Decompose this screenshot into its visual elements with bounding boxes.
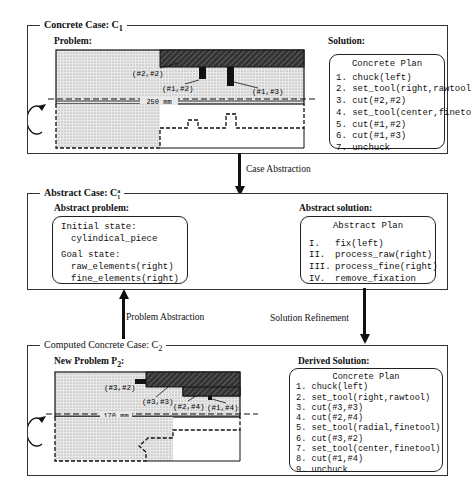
- computed-case-title-text: Computed Concrete Case: C: [44, 339, 158, 350]
- plan-step: 3. cut(#2,#2): [336, 96, 438, 108]
- plan-step: 9. unchuck: [296, 465, 436, 475]
- callout-2-4: (#2,#4): [173, 403, 205, 411]
- concrete-case-title-sub: 1: [119, 24, 123, 33]
- plan-step: 5. set_tool(radial,finetool): [296, 423, 436, 433]
- workpiece-diagram-c1: 250 mm (#2,#2) (#1,#2) (#1,#3): [28, 46, 318, 156]
- solution-refinement-arrow: [363, 288, 366, 335]
- callout-3-3: (#3,#3): [142, 398, 174, 406]
- plan-step: 3. cut(#3,#3): [296, 403, 436, 413]
- concrete-plan-c2: Concrete Plan 1. chuck(left) 2. set_tool…: [289, 368, 443, 472]
- abstract-case-title-text: Abstract Case: C: [44, 187, 117, 198]
- plan-step: 1. chuck(left): [296, 382, 436, 392]
- plan-step: 8. cut(#1,#4): [296, 454, 436, 464]
- goal-state-value: fine_elements(right): [61, 274, 179, 286]
- concrete-case-title: Concrete Case: C1: [40, 19, 127, 35]
- callout-2-2: (#2,#2): [132, 70, 164, 78]
- plan-title: Abstract Plan: [309, 221, 427, 233]
- plan-step: 6. cut(#1,#3): [336, 131, 438, 143]
- plan-step: 7. set_tool(center,finetool): [296, 444, 436, 454]
- plan-step: 5. cut(#1,#2): [336, 120, 438, 132]
- rotation-icon: [28, 418, 42, 446]
- plan-step: III.process_fine(right): [309, 262, 427, 274]
- rotation-icon: [28, 106, 42, 134]
- plan-step: 4. set_tool(center,finetool): [336, 108, 438, 120]
- callout-1-3: (#1,#3): [252, 88, 284, 96]
- plan-step: 6. cut(#3,#2): [296, 434, 436, 444]
- abstract-case-title: Abstract Case: Ca1: [40, 187, 124, 200]
- concrete-case-panel: Concrete Case: C1 Problem: Solution: 250…: [27, 25, 448, 154]
- plan-title: Concrete Plan: [336, 59, 438, 71]
- plan-step: I.fix(left): [309, 239, 427, 251]
- goal-state-label: Goal state:: [61, 250, 179, 262]
- initial-state-label: Initial state:: [61, 222, 179, 234]
- initial-state-value: cylindical_piece: [61, 234, 179, 246]
- computed-case-title-sub: 2: [158, 344, 162, 353]
- problem-label: Problem:: [54, 36, 92, 46]
- derived-solution-label: Derived Solution:: [298, 356, 370, 366]
- new-problem-label: New Problem P2:: [54, 356, 124, 369]
- plan-step: 2. set_tool(right,rawtool): [296, 393, 436, 403]
- plan-step: 7. unchuck: [336, 143, 438, 155]
- plan-step: II.process_raw(right): [309, 250, 427, 262]
- solution-label: Solution:: [328, 36, 365, 46]
- abstract-plan-box: Abstract Plan I.fix(left) II.process_raw…: [300, 216, 436, 284]
- plan-step: 1. chuck(left): [336, 73, 438, 85]
- plan-step: 2. set_tool(right,rawtool): [336, 84, 438, 96]
- solution-refinement-label: Solution Refinement: [270, 313, 349, 323]
- abstract-case-title-sub: 1: [117, 194, 120, 200]
- case-abstraction-label: Case Abstraction: [246, 164, 311, 174]
- computed-case-title: Computed Concrete Case: C2: [40, 339, 166, 355]
- goal-state-value: raw_elements(right): [61, 262, 179, 274]
- concrete-plan-c1: Concrete Plan 1. chuck(left) 2. set_tool…: [329, 54, 445, 149]
- case-abstraction-arrow: [238, 153, 241, 187]
- computed-case-panel: Computed Concrete Case: C2 New Problem P…: [27, 345, 448, 476]
- problem-abstraction-arrow: [122, 298, 125, 344]
- callout-3-2: (#3,#2): [104, 384, 136, 392]
- callout-1-2: (#1,#2): [162, 85, 194, 93]
- concrete-case-title-text: Concrete Case: C: [44, 19, 119, 30]
- abstract-solution-label: Abstract solution:: [299, 203, 372, 213]
- workpiece-diagram-c2: 170 mm (#3,#2) (#3,#3) (#2,#4) (#1,#4): [28, 370, 258, 470]
- abstract-problem-box: Initial state: cylindical_piece Goal sta…: [52, 216, 188, 284]
- abstract-problem-label: Abstract problem:: [54, 203, 129, 213]
- abstract-case-panel: Abstract Case: Ca1 Abstract problem: Abs…: [27, 193, 448, 290]
- plan-step: IV.remove_fixation: [309, 274, 427, 286]
- callout-1-4: (#1,#4): [207, 404, 239, 412]
- problem-abstraction-label: Problem Abstraction: [126, 312, 204, 322]
- plan-step: 4. cut(#2,#4): [296, 413, 436, 423]
- plan-title: Concrete Plan: [296, 372, 436, 382]
- arrow-head-down-icon: [360, 334, 370, 344]
